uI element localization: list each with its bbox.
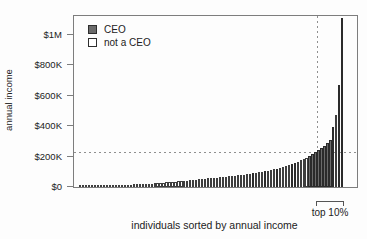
income-bar-ceo <box>252 173 254 187</box>
income-bar <box>282 167 284 187</box>
income-bar <box>115 185 117 187</box>
income-bar <box>109 185 111 187</box>
income-bar-ceo <box>291 164 293 187</box>
income-bar <box>162 183 164 187</box>
income-bar <box>79 185 81 187</box>
income-bar <box>100 185 102 187</box>
income-bar-ceo <box>314 152 316 187</box>
income-bar <box>198 179 200 187</box>
y-tick-label: $800K <box>0 59 62 70</box>
income-bar <box>237 175 239 187</box>
x-axis-title: individuals sorted by annual income <box>73 219 356 231</box>
y-axis: $0$200K$400K$600K$800K$1M <box>0 15 73 188</box>
income-bar <box>183 181 185 187</box>
income-bar <box>204 179 206 187</box>
income-bar-ceo <box>276 169 278 187</box>
income-bar-ceo <box>311 154 313 187</box>
plot-area: CEO not a CEO <box>73 15 358 188</box>
legend-label-ceo: CEO <box>104 23 126 36</box>
income-bar-ceo <box>264 171 266 187</box>
income-distribution-figure: annual income $0$200K$400K$600K$800K$1M … <box>0 0 367 239</box>
legend-item-not-ceo: not a CEO <box>88 36 151 49</box>
income-bar <box>91 185 93 187</box>
income-bar <box>243 175 245 188</box>
income-bar <box>195 180 197 187</box>
income-bar <box>112 185 114 187</box>
income-bar <box>82 185 84 187</box>
income-bar <box>192 180 194 187</box>
income-bar <box>180 181 182 187</box>
income-bar <box>159 183 161 187</box>
income-bar <box>97 185 99 187</box>
income-bar <box>168 182 170 187</box>
income-bar <box>207 178 209 187</box>
income-bar <box>174 182 176 187</box>
income-bar <box>130 185 132 187</box>
y-tick-label: $400K <box>0 120 62 131</box>
legend: CEO not a CEO <box>88 23 151 49</box>
income-bar <box>216 178 218 187</box>
income-bar <box>145 184 147 187</box>
income-bar <box>267 171 269 187</box>
income-bar <box>171 182 173 187</box>
income-bar <box>240 175 242 187</box>
income-bar <box>121 185 123 187</box>
income-bar-ceo <box>326 143 328 187</box>
income-bar <box>228 176 230 187</box>
income-bar <box>103 185 105 187</box>
legend-label-not-ceo: not a CEO <box>104 36 151 49</box>
income-bar <box>285 166 287 187</box>
income-bar <box>156 183 158 187</box>
income-bar <box>106 185 108 187</box>
income-bar <box>94 185 96 187</box>
income-bar <box>219 177 221 187</box>
income-bar <box>300 160 302 187</box>
income-bar-ceo <box>317 150 319 187</box>
income-bar-ceo <box>323 146 325 187</box>
income-bar <box>88 185 90 187</box>
income-bar-ceo <box>294 163 296 187</box>
income-bar <box>222 177 224 187</box>
y-tick-label: $1M <box>0 29 62 40</box>
y-tick-label: $600K <box>0 90 62 101</box>
income-bar-ceo <box>332 127 334 187</box>
income-bar <box>249 174 251 187</box>
ceo-swatch-icon <box>88 25 97 34</box>
income-bar <box>225 177 227 187</box>
income-bar <box>288 165 290 187</box>
income-bar <box>261 172 263 187</box>
income-bar <box>136 184 138 187</box>
income-bar-ceo <box>329 140 331 187</box>
income-bar <box>189 180 191 187</box>
income-bar <box>148 184 150 187</box>
income-bar-ceo <box>341 18 343 187</box>
income-bar <box>255 173 257 187</box>
income-bar <box>279 168 281 187</box>
income-bar <box>213 178 215 187</box>
income-bar <box>231 176 233 187</box>
income-bar-ceo <box>338 85 340 187</box>
y-tick-label: $200K <box>0 151 62 162</box>
income-bar <box>124 185 126 187</box>
income-bar <box>201 179 203 187</box>
income-bar <box>234 176 236 187</box>
income-bar <box>297 162 299 187</box>
income-bar <box>139 184 141 187</box>
income-bar <box>273 169 275 187</box>
income-bar <box>177 181 179 187</box>
income-bar <box>270 170 272 187</box>
income-bar <box>154 183 156 187</box>
income-bar <box>246 174 248 187</box>
income-bar <box>127 185 129 187</box>
income-bar-ceo <box>320 148 322 187</box>
y-tick-label: $0 <box>0 181 62 192</box>
income-bar <box>186 181 188 187</box>
income-bar <box>133 184 135 187</box>
income-bar-ceo <box>308 156 310 187</box>
income-bar <box>210 178 212 187</box>
income-bar <box>303 159 305 187</box>
income-bar <box>151 184 153 188</box>
income-bar <box>305 158 307 187</box>
top-decile-bracket <box>316 201 344 206</box>
top-decile-label: top 10% <box>302 207 358 218</box>
